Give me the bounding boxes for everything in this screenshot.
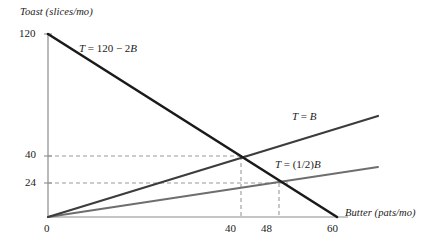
- series-label-budget-eq: =: [88, 42, 94, 54]
- y-tick-label-24: 24: [25, 176, 36, 188]
- x-tick-label-60: 60: [327, 222, 338, 234]
- series-line-budget: [48, 34, 337, 217]
- series-line-t-b: [48, 116, 378, 217]
- x-tick-label-0: 0: [44, 222, 50, 234]
- x-axis-title: Butter (pats/mo): [345, 207, 416, 218]
- y-tick-label-120: 120: [19, 27, 36, 39]
- series-label-t-b: T = B: [292, 110, 316, 122]
- series-label-t-b-lhs: T: [292, 110, 298, 122]
- series-label-t-half-b-eq: =: [284, 158, 290, 170]
- series-label-budget-lhs: T: [79, 42, 85, 54]
- series-label-t-half-b-lhs: T: [275, 158, 281, 170]
- series-line-t-half-b: [48, 167, 378, 217]
- y-tick-label-40: 40: [25, 148, 36, 160]
- x-tick-label-40: 40: [225, 222, 236, 234]
- series-label-t-half-b-num: (1/2): [293, 158, 314, 170]
- series-label-t-half-b: T = (1/2)B: [275, 158, 321, 170]
- series-label-budget: T = 120 − 2B: [79, 42, 137, 54]
- series-label-t-half-b-var: B: [314, 158, 321, 170]
- y-axis-title: Toast (slices/mo): [20, 6, 93, 17]
- x-tick-label-48: 48: [261, 222, 272, 234]
- series-label-t-b-var: B: [310, 110, 317, 122]
- series-label-t-b-eq: =: [301, 110, 307, 122]
- series-label-budget-num: 120 − 2: [97, 42, 131, 54]
- series-label-budget-var: B: [130, 42, 137, 54]
- chart-figure: Toast (slices/mo) Butter (pats/mo) 120 4…: [0, 0, 429, 245]
